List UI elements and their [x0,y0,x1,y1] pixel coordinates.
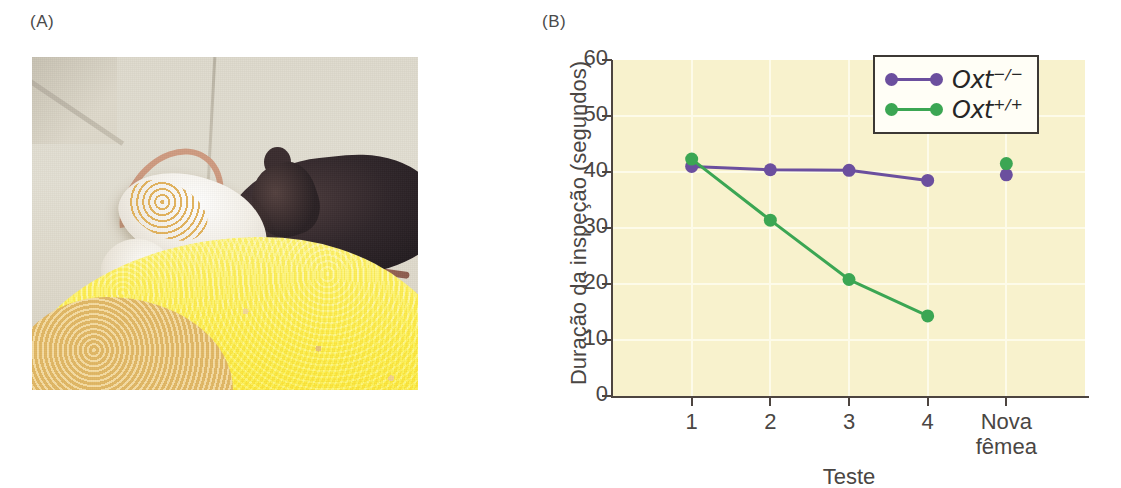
legend-label: Oxt+/+ [952,95,1023,124]
series-line-Oxt-/- [692,166,928,180]
inspection-duration-line-chart: 0102030405060 1234Novafêmea Teste Duraçã… [540,40,1115,470]
legend-label: Oxt−/− [952,65,1023,94]
data-point-Oxt-/--4 [921,174,934,187]
data-point-Oxt-/--5 [1000,168,1013,181]
series-Oxt-/- [685,160,1013,187]
data-point-Oxt-/--2 [764,163,777,176]
x-tick-1 [691,396,693,406]
legend-item-Oxt+/+[interactable]: Oxt+/+ [885,94,1023,124]
panel-a-photograph [32,57,418,390]
x-axis-line [611,396,1089,398]
x-tick-4 [927,396,929,406]
data-point-Oxt+/+-2 [764,214,777,227]
x-tick-3 [848,396,850,406]
data-point-Oxt+/+-1 [685,153,698,166]
chart-legend: Oxt−/−Oxt+/+ [873,55,1039,134]
legend-item-Oxt-/-[interactable]: Oxt−/− [885,64,1023,94]
data-point-Oxt-/--3 [843,164,856,177]
x-tick-label-line1: Nova [951,409,1061,434]
legend-swatch-icon [885,102,943,116]
x-tick-5 [1005,396,1007,406]
data-point-Oxt+/+-4 [921,309,934,322]
series-line-Oxt+/+ [692,159,928,316]
legend-label-superscript: −/− [993,65,1023,83]
panel-b-label: (B) [542,12,566,32]
y-axis-title: Duração da inspeção (segundos) [566,48,592,398]
x-tick-label-line2: fêmea [951,434,1061,459]
x-tick-label-5: Novafêmea [951,409,1061,459]
legend-swatch-icon [885,72,943,86]
panel-a-label: (A) [30,12,54,32]
data-point-Oxt+/+-5 [1000,157,1013,170]
legend-label-superscript: +/+ [993,95,1023,113]
data-point-Oxt+/+-3 [843,273,856,286]
series-Oxt+/+ [685,153,1013,323]
x-axis-title: Teste [613,464,1085,488]
x-tick-2 [769,396,771,406]
y-axis-line [611,60,613,398]
